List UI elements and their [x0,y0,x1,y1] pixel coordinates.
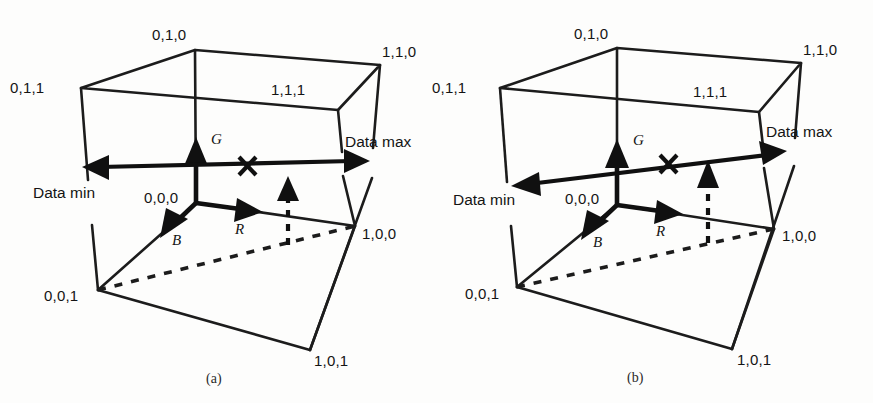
data-max-arrowhead [759,141,787,165]
projection-arrowhead [277,176,299,201]
vertex-1-0-1: 1,0,1 [314,353,348,368]
panel-a: 0,1,0 1,1,0 0,1,1 1,1,1 0,0,0 1,0,0 0,0,… [0,0,437,403]
cube-top-face [500,48,801,112]
vertex-1-0-0: 1,0,0 [782,228,816,243]
vertex-0-0-1: 0,0,1 [465,286,499,301]
axis-label-r: R [656,224,665,239]
edge-011-to-001-lower [511,226,517,287]
edge-101-to-100 [310,226,355,350]
vertex-0-0-0: 0,0,0 [565,191,599,206]
data-max-arrowhead [344,149,370,173]
axis-label-g: G [211,132,222,147]
edge-011-to-001-lower [92,225,98,290]
data-max-label: Data max [345,134,411,150]
vertex-1-0-0: 1,0,0 [362,226,396,241]
axis-arrowhead-g [605,139,629,168]
axis-arrow-r [617,205,660,211]
axis-label-b: B [172,233,181,248]
data-min-arrowhead [511,172,541,196]
hidden-edge-001-to-100 [98,226,355,290]
edge-111-to-100-lower [764,168,774,229]
panel-b: 0,1,0 1,1,0 0,1,1 1,1,1 0,0,0 1,0,0 0,0,… [437,0,873,403]
axis-label-b: B [593,235,602,250]
edge-011-to-001-upper [500,88,507,182]
vertex-0-1-0: 0,1,0 [574,26,608,41]
hidden-edge-001-to-100 [517,229,774,287]
vertex-1-1-1: 1,1,1 [271,82,305,97]
edge-111-to-100-upper [759,112,763,146]
data-range-line [100,161,352,167]
vertex-0-1-0: 0,1,0 [152,27,186,42]
data-max-label: Data max [766,124,832,140]
vertex-0-0-1: 0,0,1 [44,288,78,303]
edge-111-to-100-lower [343,176,355,226]
axis-label-r: R [235,222,244,237]
rgb-cube-figure: 0,1,0 1,1,0 0,1,1 1,1,1 0,0,0 1,0,0 0,0,… [0,0,873,403]
vertex-1-1-0: 1,1,0 [382,44,416,59]
axis-arrowhead-r [234,198,263,222]
vertex-0-0-0: 0,0,0 [144,190,178,205]
vertex-0-1-1: 0,1,1 [432,80,466,95]
data-min-label: Data min [33,185,95,201]
vertex-1-1-0: 1,1,0 [803,42,837,57]
data-range-line [529,155,767,184]
vertex-1-0-1: 1,0,1 [737,352,771,367]
data-min-label: Data min [453,192,515,208]
axis-arrow-r [196,203,240,209]
axis-label-g: G [633,133,644,148]
vertex-0-1-1: 0,1,1 [10,80,44,95]
axis-arrowhead-r [654,200,683,224]
edge-111-to-100-upper [338,110,342,152]
edge-001-to-101 [98,290,310,350]
x-marker [660,155,677,173]
edge-001-to-101 [517,287,732,349]
panel-caption-a: (a) [206,372,222,386]
panel-a-drawing [0,0,437,403]
axis-arrowhead-g [184,137,208,166]
panel-caption-b: (b) [627,371,643,385]
x-marker [239,157,256,175]
edge-101-to-100 [732,229,774,349]
vertex-1-1-1: 1,1,1 [693,84,727,99]
cube-top-face [81,50,380,110]
